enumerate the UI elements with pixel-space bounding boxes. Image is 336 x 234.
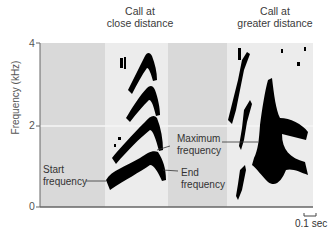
y-tick-4: 4 bbox=[29, 37, 35, 49]
y-axis-label: Frequency (kHz) bbox=[10, 53, 21, 143]
scale-bar-label: 0.1 sec bbox=[295, 218, 327, 230]
title-line: Call at bbox=[100, 5, 180, 17]
far-call-title: Call at greater distance bbox=[230, 5, 320, 29]
title-line: close distance bbox=[100, 17, 180, 29]
annot-line: Start bbox=[43, 164, 87, 176]
annot-line: frequency bbox=[181, 179, 225, 191]
title-line: greater distance bbox=[230, 17, 320, 29]
end-frequency-label: End frequency bbox=[181, 167, 225, 190]
annot-line: frequency bbox=[43, 176, 87, 188]
title-line: Call at bbox=[230, 5, 320, 17]
spectrogram-plot bbox=[0, 0, 336, 234]
y-tick-0: 0 bbox=[29, 200, 35, 212]
scale-bar bbox=[304, 213, 316, 216]
annot-line: Maximum bbox=[177, 133, 221, 145]
annot-line: frequency bbox=[177, 145, 221, 157]
annot-line: End bbox=[181, 167, 225, 179]
start-frequency-label: Start frequency bbox=[43, 164, 87, 187]
y-tick-2: 2 bbox=[29, 119, 35, 131]
close-call-title: Call at close distance bbox=[100, 5, 180, 29]
maximum-frequency-label: Maximum frequency bbox=[177, 133, 221, 156]
